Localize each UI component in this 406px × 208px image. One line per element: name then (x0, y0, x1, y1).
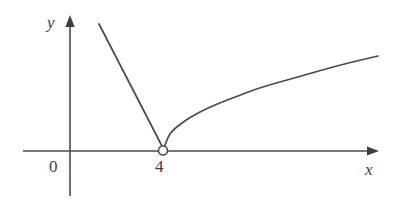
x-axis (23, 146, 379, 155)
right-branch-sqrt-curve (164, 56, 378, 148)
x-axis-label: x (365, 161, 373, 178)
piecewise-function-figure: y x 0 4 (0, 0, 406, 208)
x-tick-label-4: 4 (155, 158, 164, 175)
y-axis-label: y (47, 14, 55, 31)
plot-canvas (0, 0, 406, 208)
origin-label: 0 (49, 158, 58, 175)
y-axis-arrow-icon (65, 15, 74, 27)
x-axis-arrow-icon (367, 146, 379, 155)
open-circle-marker (159, 146, 168, 155)
y-axis (65, 15, 74, 196)
left-branch-line (99, 24, 163, 148)
